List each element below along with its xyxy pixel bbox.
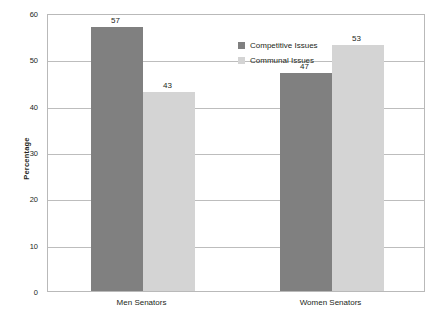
- y-axis-tick-label: 20: [30, 195, 38, 204]
- x-axis-category-label: Women Senators: [300, 298, 362, 307]
- bar-value-label: 43: [163, 81, 172, 90]
- y-axis-tick-label: 0: [34, 288, 38, 297]
- plot-area: Competitive Issues Communal Issues: [47, 14, 425, 292]
- bar-competitive-0[interactable]: [91, 27, 143, 291]
- bar-communal-0[interactable]: [143, 92, 195, 291]
- legend-label-competitive: Competitive Issues: [250, 41, 318, 50]
- y-axis-tick-label: 50: [30, 56, 38, 65]
- y-axis-tick-label: 40: [30, 102, 38, 111]
- legend-swatch-icon-communal: [238, 57, 245, 64]
- bar-value-label: 47: [300, 62, 309, 71]
- y-axis-tick-label: 10: [30, 241, 38, 250]
- bar-chart: Percentage 0102030405060 Competitive Iss…: [0, 0, 441, 317]
- bar-value-label: 53: [352, 34, 361, 43]
- bar-communal-1[interactable]: [332, 45, 384, 291]
- y-axis-tick-label: 30: [30, 149, 38, 158]
- bar-competitive-1[interactable]: [280, 73, 332, 291]
- y-axis-tick-labels: 0102030405060: [0, 14, 42, 292]
- y-axis-tick-label: 60: [30, 10, 38, 19]
- legend-item-competitive-issues[interactable]: Competitive Issues: [238, 41, 318, 50]
- legend-swatch-icon-competitive: [238, 42, 245, 49]
- x-axis-category-label: Men Senators: [117, 298, 167, 307]
- bar-value-label: 57: [111, 16, 120, 25]
